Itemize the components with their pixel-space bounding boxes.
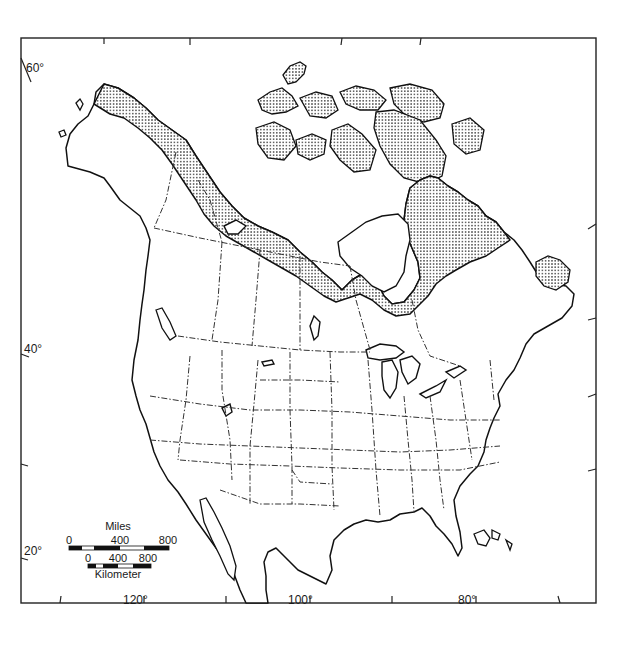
scale-bar: Miles 0 400 800 0 400 800 Kilometer: [66, 520, 177, 580]
map-container: 60° 40° 20° 120° 100° 80°: [0, 0, 617, 646]
lon-label-120: 120°: [123, 593, 148, 607]
island: [492, 530, 500, 540]
lat-label-40: 40°: [24, 342, 42, 356]
lon-label-100: 100°: [288, 593, 313, 607]
cuba: [474, 530, 490, 546]
island: [59, 130, 66, 137]
scale-km-400: 400: [109, 552, 127, 564]
lat-label-60: 60°: [26, 61, 44, 75]
island: [506, 540, 512, 550]
scale-km-title: Kilometer: [95, 568, 142, 580]
north-america-map: 60° 40° 20° 120° 100° 80°: [0, 0, 617, 646]
scale-miles-800: 800: [159, 534, 177, 546]
island: [76, 99, 83, 110]
lat-label-20: 20°: [24, 544, 42, 558]
hudson-bay: [338, 214, 410, 292]
scale-miles-0: 0: [66, 534, 72, 546]
scale-km-0: 0: [85, 552, 91, 564]
arctic-islands: [256, 62, 484, 184]
lon-label-80: 80°: [458, 593, 476, 607]
scale-miles-400: 400: [111, 534, 129, 546]
scale-miles-title: Miles: [105, 520, 131, 532]
scale-km-800: 800: [139, 552, 157, 564]
continent-outline: [66, 84, 574, 603]
